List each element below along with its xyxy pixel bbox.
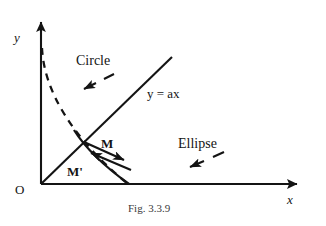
x-axis-label: x [287,193,293,206]
point-m-prime-label: M' [67,165,83,178]
circle-label: Circle [76,54,110,68]
figure-drawing [0,0,326,226]
point-m-label: M [101,137,113,150]
figure-container: y x O Circle Ellipse y = ax M M' Fig. 3.… [0,0,326,226]
circle-leader-arrow [84,74,114,89]
line-equation-label: y = ax [147,87,180,100]
ellipse-label: Ellipse [178,137,217,151]
ellipse-leader-arrow [190,152,224,167]
figure-caption: Fig. 3.3.9 [128,203,170,214]
origin-label: O [15,183,24,196]
y-axis-label: y [14,31,20,44]
m-prime-velocity-vector [91,153,131,170]
